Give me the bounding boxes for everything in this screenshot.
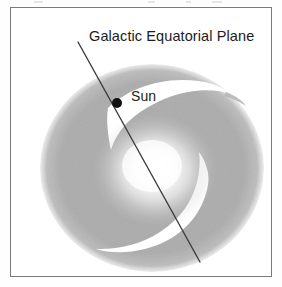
galactic-equatorial-plane-label: Galactic Equatorial Plane — [89, 28, 254, 44]
sun-label: Sun — [131, 88, 156, 104]
galaxy-core-glow — [93, 114, 217, 226]
sun-dot — [112, 98, 122, 108]
galaxy-figure: Galactic Equatorial Plane Sun — [0, 0, 282, 287]
